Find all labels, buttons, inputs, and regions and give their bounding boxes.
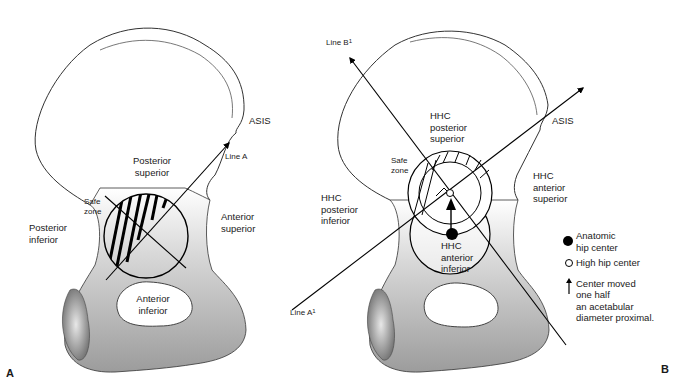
filled-circle-icon — [563, 236, 573, 246]
open-circle-icon — [565, 259, 573, 267]
line-b1-label: Line B1 — [326, 38, 352, 48]
hip-acetabulum-figure: ASIS Line A Posterior superior Safe zone… — [0, 0, 680, 389]
legend-item-anatomic-hip-center: Anatomic hip center — [563, 230, 680, 253]
anterior-inferior-label-a: Anterior inferior — [128, 293, 178, 316]
hhc-anterior-inferior-label: HHC anterior inferior — [441, 240, 473, 275]
hhc-posterior-superior-label: HHC posterior superior — [430, 110, 467, 145]
line-a-label: Line A — [225, 152, 247, 162]
posterior-superior-label-a: Posterior superior — [124, 155, 180, 178]
asis-label-b: ASIS — [552, 115, 574, 127]
safe-zone-label-a: Safe zone — [84, 197, 101, 216]
asis-label-a: ASIS — [249, 115, 271, 127]
legend-item-center-moved: Center moved one half an acetabular diam… — [563, 278, 680, 324]
up-arrow-icon — [566, 278, 572, 294]
anatomic-hip-center-marker — [446, 228, 458, 240]
posterior-inferior-label-a: Posterior inferior — [29, 222, 67, 245]
anterior-superior-label-a: Anterior superior — [221, 211, 255, 234]
hhc-posterior-inferior-label: HHC posterior inferior — [321, 192, 358, 227]
panel-label-b: B — [661, 364, 669, 376]
panel-a-pelvis — [35, 28, 246, 372]
hhc-anterior-superior-label: HHC anterior superior — [533, 170, 567, 205]
panel-label-a: A — [6, 368, 14, 380]
legend-item-high-hip-center: High hip center — [563, 257, 680, 269]
safe-zone-label-b: Safe zone — [391, 156, 408, 175]
high-hip-center-marker — [447, 190, 454, 197]
legend: Anatomic hip center High hip center Cent… — [566, 230, 680, 324]
line-a1-label: Line A1 — [290, 308, 316, 318]
